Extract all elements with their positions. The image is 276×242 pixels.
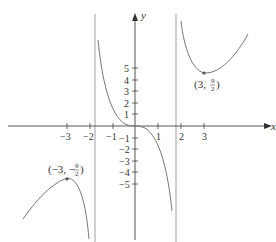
- y-tick-label: −4: [119, 167, 130, 178]
- svg-text:9: 9: [75, 162, 79, 170]
- x-tick-label: −2: [83, 131, 94, 142]
- local-min-label: (3, 9 2 ): [194, 77, 220, 93]
- x-tick-label: 2: [179, 131, 184, 142]
- y-tick-label: −3: [119, 156, 130, 167]
- y-tick-label: 3: [124, 86, 129, 97]
- svg-text:2: 2: [211, 85, 215, 93]
- svg-text:): ): [216, 78, 220, 91]
- x-tick-label: 1: [156, 131, 161, 142]
- x-tick-label: −3: [60, 131, 71, 142]
- local-min-point: [202, 71, 205, 74]
- y-tick-label: −1: [119, 133, 130, 144]
- svg-text:2: 2: [75, 170, 79, 178]
- y-axis-arrow-icon: [132, 13, 138, 21]
- x-axis-label: x: [270, 120, 276, 132]
- y-tick-label: 2: [124, 98, 129, 109]
- svg-text:(−3, −: (−3, −: [48, 163, 75, 176]
- y-tick-label: 4: [124, 75, 129, 86]
- function-graph: x y −3 −2 −1 1 2 3 5 4 3 2 1 −1 −2 −3 −4…: [0, 0, 276, 242]
- svg-text:): ): [80, 163, 84, 176]
- local-max-label: (−3, − 9 2 ): [48, 162, 84, 178]
- y-tick-label: 5: [124, 63, 129, 74]
- svg-text:9: 9: [211, 77, 215, 85]
- curve-right-branch: [181, 21, 248, 73]
- curve-left-branch: [23, 178, 89, 239]
- x-tick-label: −1: [106, 131, 117, 142]
- y-tick-label: −5: [119, 179, 130, 190]
- svg-text:(3,: (3,: [194, 78, 206, 91]
- local-max-point: [65, 177, 68, 180]
- y-axis-label: y: [140, 9, 146, 21]
- y-tick-label: −2: [119, 144, 130, 155]
- y-tick-label: 1: [124, 109, 129, 120]
- x-tick-label: 3: [202, 131, 207, 142]
